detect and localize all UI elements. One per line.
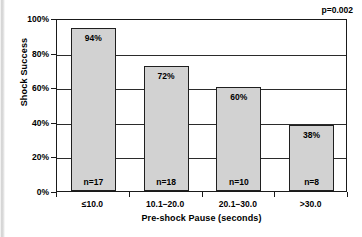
y-tick-label: 40% [9, 118, 49, 128]
y-tick-label: 80% [9, 49, 49, 59]
bar: 72%n=18 [144, 66, 189, 191]
bar: 94%n=17 [71, 28, 116, 191]
y-tick-mark [51, 88, 56, 89]
bar: 60%n=10 [216, 87, 261, 191]
y-tick-mark [51, 123, 56, 124]
y-tick-mark [51, 19, 56, 20]
y-tick-label: 0% [9, 187, 49, 197]
bar-chart-figure: Shock Success 94%n=1772%n=1860%n=1038%n=… [0, 0, 362, 237]
y-tick-label: 20% [9, 152, 49, 162]
bar-value-label: 72% [145, 71, 188, 81]
x-tick-mark [129, 192, 130, 197]
bar-value-label: 38% [290, 130, 333, 140]
bar-count-label: n=17 [72, 177, 115, 187]
p-value-annotation: p=0.002 [322, 5, 353, 15]
x-tick-mark [347, 192, 348, 197]
x-tick-mark [274, 192, 275, 197]
x-tick-mark [56, 192, 57, 197]
bar: 38%n=8 [289, 125, 334, 191]
bar-count-label: n=8 [290, 177, 333, 187]
y-axis-title: Shock Success [19, 12, 29, 132]
y-tick-mark [51, 157, 56, 158]
y-tick-label: 60% [9, 83, 49, 93]
y-tick-mark [51, 54, 56, 55]
bar-count-label: n=10 [217, 177, 260, 187]
plot-area: 94%n=1772%n=1860%n=1038%n=8 [56, 19, 347, 192]
x-axis-title: Pre-shock Pause (seconds) [56, 213, 347, 223]
bar-value-label: 60% [217, 92, 260, 102]
bar-value-label: 94% [72, 33, 115, 43]
y-tick-label: 100% [9, 14, 49, 24]
x-tick-label: >30.0 [266, 199, 356, 209]
x-tick-mark [202, 192, 203, 197]
bar-count-label: n=18 [145, 177, 188, 187]
